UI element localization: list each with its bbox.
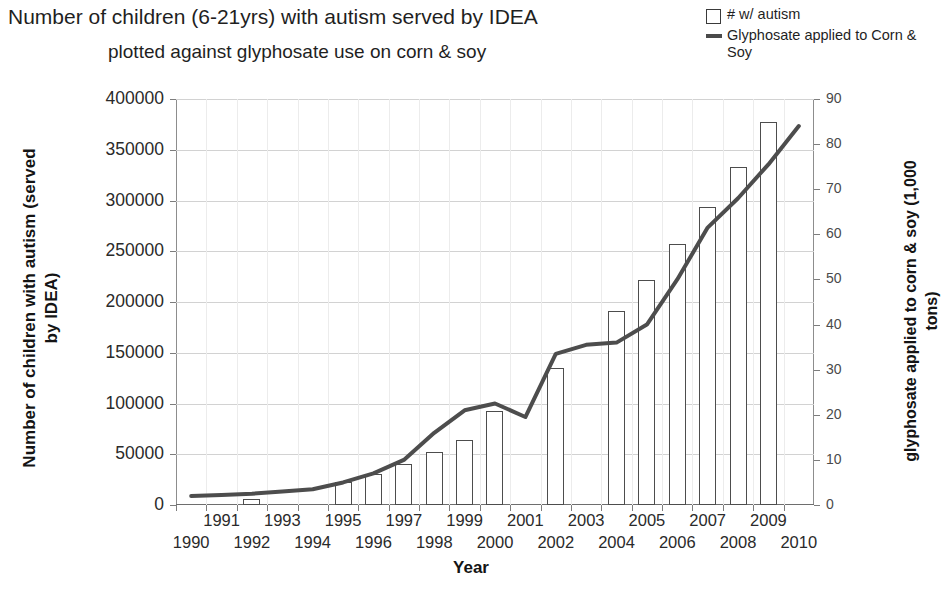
y-axis-right-ticklabel: 80	[826, 135, 860, 151]
x-axis-ticklabel: 1993	[254, 511, 310, 530]
y-axis-right-tick	[814, 99, 820, 100]
legend-item-glyphosate: Glyphosate applied to Corn & Soy	[706, 27, 942, 61]
y-axis-left-tick	[170, 454, 176, 455]
y-axis-left-tick	[170, 353, 176, 354]
x-axis-ticklabel: 2001	[497, 511, 553, 530]
x-axis-ticklabel: 2004	[589, 533, 645, 552]
open-square-icon	[706, 9, 721, 24]
y-axis-right-tick	[814, 505, 820, 506]
y-axis-right-ticklabel: 0	[826, 496, 860, 512]
legend-label-glyphosate: Glyphosate applied to Corn & Soy	[727, 27, 942, 61]
y-axis-left-tick	[170, 150, 176, 151]
y-axis-right-tick	[814, 460, 820, 461]
y-axis-right-ticklabel: 60	[826, 225, 860, 241]
x-axis-tick	[176, 505, 177, 511]
x-axis-ticklabel: 1992	[224, 533, 280, 552]
x-axis-ticklabel: 2007	[680, 511, 736, 530]
x-axis-ticklabel: 2000	[467, 533, 523, 552]
y-axis-right-tick	[814, 370, 820, 371]
chart-title-line-2: plotted against glyphosate use on corn &…	[108, 40, 708, 64]
y-axis-right-ticklabel: 20	[826, 406, 860, 422]
y-axis-left-ticklabel: 300000	[66, 190, 164, 211]
chart-figure: Number of children (6-21yrs) with autism…	[0, 0, 942, 589]
y-axis-left-tick	[170, 201, 176, 202]
x-axis-ticklabel: 2008	[710, 533, 766, 552]
y-axis-left-tick	[170, 99, 176, 100]
y-axis-right-ticklabel: 90	[826, 90, 860, 106]
y-axis-left-ticklabel: 50000	[66, 443, 164, 464]
x-axis-ticklabel: 1994	[285, 533, 341, 552]
y-axis-right-ticklabel: 50	[826, 270, 860, 286]
line-series-layer	[176, 99, 814, 505]
y-axis-left-ticklabel: 100000	[66, 393, 164, 414]
x-axis-ticklabel: 2002	[528, 533, 584, 552]
y-axis-right-ticklabel: 30	[826, 361, 860, 377]
y-axis-right-tick	[814, 279, 820, 280]
x-axis-ticklabel: 2009	[740, 511, 796, 530]
legend-item-autism: # w/ autism	[706, 6, 942, 24]
y-axis-left-ticklabel: 250000	[66, 240, 164, 261]
y-axis-left-ticklabel: 350000	[66, 139, 164, 160]
y-axis-right-tick	[814, 144, 820, 145]
chart-title-line-1: Number of children (6-21yrs) with autism…	[8, 4, 688, 30]
y-axis-left-tick	[170, 251, 176, 252]
y-axis-right-tick	[814, 234, 820, 235]
chart-legend: # w/ autism Glyphosate applied to Corn &…	[706, 6, 942, 64]
x-axis-ticklabel: 2003	[558, 511, 614, 530]
plot-area	[176, 99, 814, 505]
y-axis-left-ticklabel: 400000	[66, 88, 164, 109]
y-axis-left-tick	[170, 404, 176, 405]
x-axis-ticklabel: 1995	[315, 511, 371, 530]
x-axis-ticklabel: 1999	[437, 511, 493, 530]
y-axis-left-title: Number of children with autism (served b…	[19, 143, 63, 473]
x-axis-ticklabel: 1991	[194, 511, 250, 530]
y-axis-left-ticklabel: 150000	[66, 342, 164, 363]
y-axis-right-tick	[814, 325, 820, 326]
x-axis-ticklabel: 1990	[163, 533, 219, 552]
y-axis-right-ticklabel: 70	[826, 180, 860, 196]
x-axis-ticklabel: 1996	[345, 533, 401, 552]
x-axis-ticklabel: 2005	[619, 511, 675, 530]
x-axis-ticklabel: 2006	[649, 533, 705, 552]
y-axis-left-tick	[170, 302, 176, 303]
x-axis-title: Year	[0, 558, 942, 578]
y-axis-left-ticklabel: 0	[66, 494, 164, 515]
y-axis-right-ticklabel: 10	[826, 451, 860, 467]
x-axis-ticklabel: 1997	[376, 511, 432, 530]
line-marker-icon	[706, 34, 722, 38]
y-axis-right-tick	[814, 189, 820, 190]
x-axis-ticklabel: 1998	[406, 533, 462, 552]
glyphosate-line	[191, 126, 799, 496]
y-axis-right-tick	[814, 415, 820, 416]
x-axis-ticklabel: 2010	[771, 533, 827, 552]
y-axis-right-title: glyphosate applied to corn & soy (1,000 …	[900, 146, 942, 476]
legend-label-autism: # w/ autism	[727, 6, 800, 23]
y-axis-right-ticklabel: 40	[826, 316, 860, 332]
y-axis-left-ticklabel: 200000	[66, 291, 164, 312]
